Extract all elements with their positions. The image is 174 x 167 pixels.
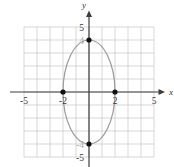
y-tick-label: 4 bbox=[79, 36, 84, 46]
y-axis-arrow-icon bbox=[86, 11, 92, 18]
y-tick-label: -5 bbox=[76, 153, 84, 163]
y-axis-label: y bbox=[81, 0, 86, 10]
y-tick-label: -4 bbox=[76, 140, 84, 150]
x-axis-label: x bbox=[168, 87, 173, 97]
x-axis-arrow-icon bbox=[159, 89, 166, 95]
ellipse-plot-svg: xy-5-22554-4-5 bbox=[0, 0, 174, 167]
vertex-point bbox=[60, 89, 65, 94]
vertex-point bbox=[112, 89, 117, 94]
ellipse-graph-figure: xy-5-22554-4-5 bbox=[0, 0, 174, 167]
x-tick-label: 5 bbox=[152, 96, 157, 106]
x-tick-label: 2 bbox=[113, 96, 118, 106]
vertex-point bbox=[86, 37, 91, 42]
x-tick-label: -2 bbox=[59, 96, 67, 106]
x-tick-label: -5 bbox=[20, 96, 28, 106]
y-tick-label: 5 bbox=[79, 23, 84, 33]
vertex-point bbox=[86, 141, 91, 146]
